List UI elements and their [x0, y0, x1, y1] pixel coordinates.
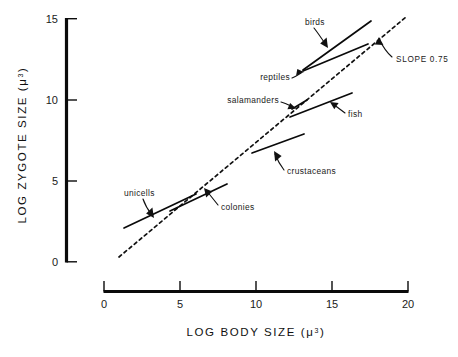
y-tick-label-5: 5: [52, 175, 58, 187]
salamanders-label: salamanders: [227, 95, 279, 105]
chart-canvas: 15 10 5 0 LOG ZYGOTE SIZE (μ3) 0 5 10 1: [0, 0, 458, 357]
x-axis-title: LOG BODY SIZE (μ3): [187, 326, 326, 338]
birds-segment: [303, 21, 371, 70]
reference-line-group: SLOPE 0.75: [119, 17, 449, 257]
chart-figure: 15 10 5 0 LOG ZYGOTE SIZE (μ3) 0 5 10 1: [0, 0, 458, 357]
x-tick-label-10: 10: [250, 298, 262, 310]
slope-075-leader-arrowhead: [375, 37, 384, 45]
colonies-segment: [170, 184, 227, 211]
slope-075-reference-line: [119, 17, 406, 257]
crustaceans-label: crustaceans: [287, 166, 336, 176]
series-fish: fish: [290, 93, 362, 119]
series-salamanders: salamanders: [227, 95, 307, 109]
x-axis: 0 5 10 15 20 LOG BODY SIZE (μ3): [101, 281, 414, 338]
series-birds: birds: [303, 17, 371, 70]
colonies-label: colonies: [221, 202, 255, 212]
x-tick-label-15: 15: [326, 298, 338, 310]
x-axis-title-mu: μ: [306, 326, 314, 338]
y-axis-title-prefix: LOG ZYGOTE SIZE (: [16, 86, 28, 224]
svg-text:LOG ZYGOTE SIZE (μ3): LOG ZYGOTE SIZE (μ3): [16, 67, 28, 224]
salamanders-leader-arrowhead: [287, 103, 296, 109]
x-tick-label-5: 5: [177, 298, 183, 310]
y-axis-title: LOG ZYGOTE SIZE (μ3): [16, 67, 28, 224]
series-crustaceans: crustaceans: [252, 134, 336, 176]
birds-label: birds: [305, 17, 325, 27]
unicells-label: unicells: [124, 188, 155, 198]
crustaceans-segment: [252, 134, 304, 153]
series-colonies: colonies: [170, 184, 255, 212]
y-tick-label-10: 10: [46, 94, 58, 106]
slope-075-label: SLOPE 0.75: [396, 55, 449, 64]
fish-leader-arrowhead: [330, 102, 339, 109]
y-tick-label-0: 0: [52, 256, 58, 268]
x-tick-label-0: 0: [101, 298, 107, 310]
y-axis-title-suffix: ): [16, 67, 28, 72]
reptiles-label: reptiles: [260, 72, 290, 82]
y-axis: 15 10 5 0 LOG ZYGOTE SIZE (μ3): [16, 13, 77, 269]
y-axis-title-mu: μ: [16, 77, 28, 85]
x-axis-title-suffix: ): [320, 326, 325, 338]
fish-label: fish: [348, 109, 362, 119]
x-tick-label-20: 20: [402, 298, 414, 310]
x-axis-title-prefix: LOG BODY SIZE (: [187, 326, 307, 338]
y-tick-label-15: 15: [46, 13, 58, 25]
